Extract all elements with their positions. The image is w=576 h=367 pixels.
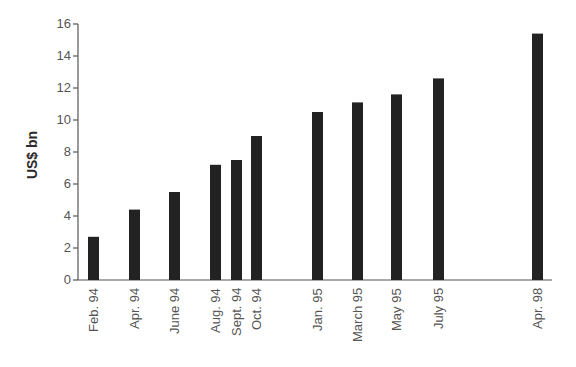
bar [391,94,402,280]
y-tick-label: 10 [41,112,71,127]
y-tick-label: 2 [41,240,71,255]
y-tick-label: 12 [41,80,71,95]
bar [129,210,140,280]
x-tick-label: Apr. 98 [530,288,545,329]
bar [88,237,99,280]
y-axis-label: US$ bn [24,131,40,179]
y-tick-label: 8 [41,144,71,159]
bar [352,102,363,280]
bar-chart: US$ bn 0246810121416 Feb. 94Apr. 94June … [0,0,576,367]
y-tick-label: 14 [41,48,71,63]
x-tick-label: March 95 [350,288,365,342]
y-tick-label: 4 [41,208,71,223]
bar [532,34,543,280]
x-tick-label: Jan. 95 [310,288,325,331]
bar [433,78,444,280]
bar [210,165,221,280]
y-tick-label: 16 [41,16,71,31]
x-tick-label: July 95 [431,288,446,329]
x-tick-label: Oct. 94 [249,288,264,330]
x-tick-label: Aug. 94 [208,288,223,333]
x-tick-label: Feb. 94 [86,288,101,332]
bar [251,136,262,280]
x-tick-label: May 95 [389,288,404,331]
x-tick-label: June 94 [167,288,182,334]
bar [169,192,180,280]
y-tick-label: 0 [41,272,71,287]
y-tick-label: 6 [41,176,71,191]
x-tick-label: Apr. 94 [127,288,142,329]
bar [312,112,323,280]
x-tick-label: Sept. 94 [229,288,244,336]
bar [231,160,242,280]
